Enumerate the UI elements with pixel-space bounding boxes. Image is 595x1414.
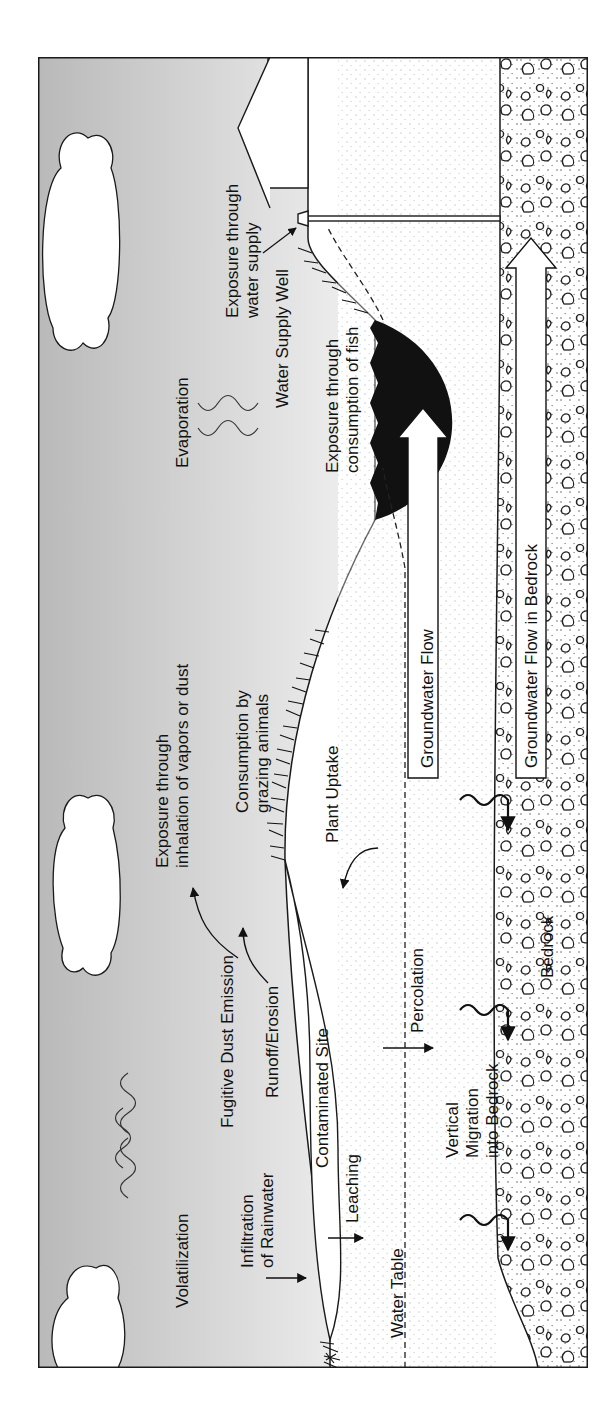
label-water-supply-1: Exposure through	[223, 184, 242, 318]
contamination-pathways-diagram: Volatilization Infiltration of Rainwater…	[38, 57, 588, 1368]
label-volatilization: Volatilization	[173, 1213, 192, 1308]
label-inhalation-1: Exposure through	[153, 734, 172, 868]
label-plant-uptake: Plant Uptake	[323, 746, 342, 843]
label-well: Water Supply Well	[273, 269, 292, 408]
label-runoff: Runoff/Erosion	[263, 986, 282, 1098]
label-leaching: Leaching	[343, 1154, 362, 1223]
label-fugitive-dust: Fugitive Dust Emission	[218, 955, 237, 1128]
label-fish-2: consumption of fish	[343, 327, 362, 473]
label-water-table: Water Table	[388, 1248, 407, 1338]
label-infiltration-2: of Rainwater	[258, 1172, 277, 1268]
label-grazing-2: grazing animals	[253, 694, 272, 813]
label-percolation: Percolation	[408, 948, 427, 1033]
label-evaporation: Evaporation	[173, 377, 192, 468]
label-vertical-1: Vertical	[443, 1102, 462, 1158]
label-water-supply-2: water supply	[243, 222, 262, 319]
label-infiltration-1: Infiltration	[238, 1194, 257, 1268]
label-vertical-2: Migration	[463, 1088, 482, 1158]
label-vertical-3: into Bedrock	[483, 1063, 502, 1158]
cloud-middle	[53, 795, 120, 975]
label-inhalation-2: inhalation of vapors or dust	[173, 664, 192, 868]
label-groundwater-flow: Groundwater Flow	[418, 628, 437, 768]
label-bedrock: Bedrock	[538, 915, 557, 978]
label-groundwater-bedrock: Groundwater Flow in Bedrock	[522, 544, 541, 768]
label-fish-1: Exposure through	[323, 339, 342, 473]
label-contaminated-site: Contaminated Site	[313, 1028, 332, 1168]
label-grazing-1: Consumption by	[233, 690, 252, 813]
diagram-canvas: Volatilization Infiltration of Rainwater…	[38, 57, 588, 1368]
